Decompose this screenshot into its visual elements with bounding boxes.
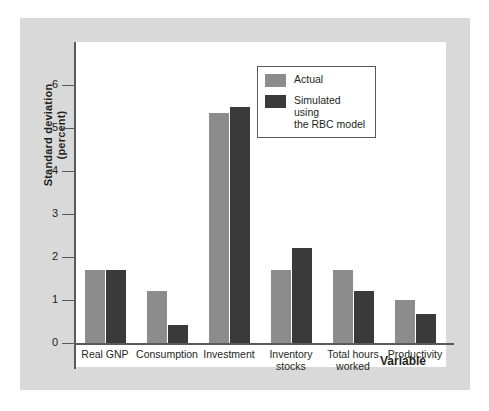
y-tick-label: 0 — [36, 337, 58, 347]
bar-simulated — [292, 248, 312, 343]
y-axis-title-line2: (percent) — [55, 111, 67, 160]
bar-actual — [395, 300, 415, 343]
y-tick-label: 3 — [36, 208, 58, 218]
y-tick-label: 4 — [36, 165, 58, 175]
y-tick-mark — [62, 300, 74, 301]
x-category-label: Consumption — [136, 348, 198, 360]
y-tick-mark — [62, 128, 74, 129]
bar-actual — [147, 291, 167, 343]
y-tick-mark — [62, 85, 74, 86]
legend-swatch-actual — [265, 74, 286, 87]
bar-simulated — [168, 325, 188, 343]
figure-panel: Standard deviation (percent) 0123456 Rea… — [20, 18, 470, 390]
y-tick-mark — [62, 214, 74, 215]
x-category-label: Inventory stocks — [260, 348, 322, 372]
y-tick-label: 1 — [36, 294, 58, 304]
legend-label-simulated: Simulated using the RBC model — [294, 94, 368, 130]
legend-swatch-simulated — [265, 95, 286, 108]
x-axis-title: Variable — [380, 354, 426, 368]
y-tick-label: 6 — [36, 79, 58, 89]
x-category-label: Real GNP — [74, 348, 136, 360]
y-tick-label: 5 — [36, 122, 58, 132]
legend-item-simulated: Simulated using the RBC model — [265, 94, 368, 130]
bar-simulated — [230, 107, 250, 344]
chart-legend: Actual Simulated using the RBC model — [257, 66, 376, 138]
y-axis-line — [74, 42, 76, 369]
bar-actual — [333, 270, 353, 343]
legend-label-actual: Actual — [294, 73, 323, 85]
bar-actual — [271, 270, 291, 343]
bar-simulated — [106, 270, 126, 343]
y-tick-mark — [62, 257, 74, 258]
y-tick-mark — [62, 171, 74, 172]
legend-item-actual: Actual — [265, 73, 368, 87]
bar-actual — [209, 113, 229, 343]
bar-simulated — [354, 291, 374, 343]
x-category-label: Investment — [198, 348, 260, 360]
y-tick-mark — [62, 343, 74, 344]
x-category-label: Total hours worked — [322, 348, 384, 372]
y-tick-label: 2 — [36, 251, 58, 261]
bar-simulated — [416, 314, 436, 343]
x-axis-line — [74, 343, 454, 345]
bar-actual — [85, 270, 105, 343]
